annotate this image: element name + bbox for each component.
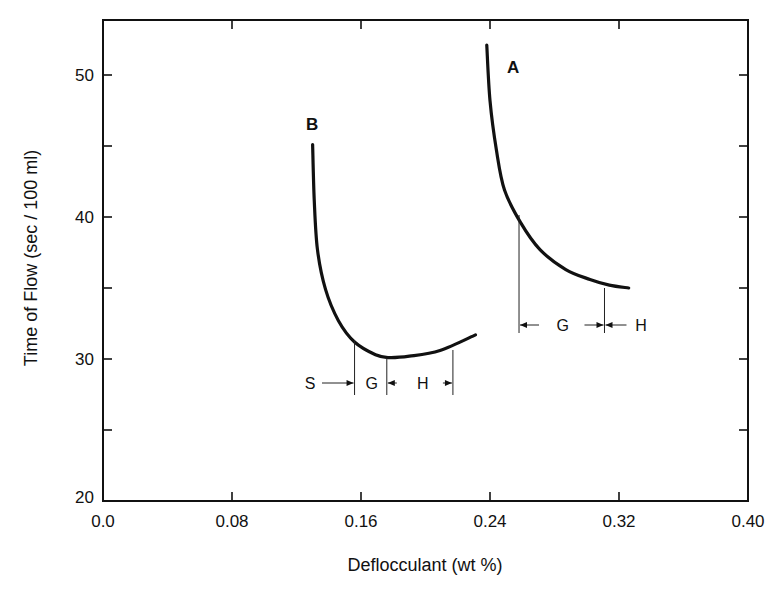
y-tick-label: 40 bbox=[75, 208, 94, 227]
y-tick-label: 20 bbox=[75, 488, 94, 507]
curve-a bbox=[487, 45, 629, 288]
x-tick-label: 0.16 bbox=[344, 512, 377, 531]
arrowhead bbox=[605, 322, 612, 328]
tick-labels: 0.00.080.160.240.320.4020304050 bbox=[75, 66, 764, 531]
x-tick-label: 0.32 bbox=[602, 512, 635, 531]
curve-b bbox=[313, 145, 476, 358]
arrowhead bbox=[388, 380, 395, 386]
x-tick-label: 0.40 bbox=[731, 512, 764, 531]
region-annotations: SGHGH bbox=[305, 215, 647, 395]
chart: 0.00.080.160.240.320.4020304050 Defloccu… bbox=[0, 0, 776, 589]
arrowhead bbox=[347, 380, 354, 386]
y-tick-label: 50 bbox=[75, 66, 94, 85]
region-label-h: H bbox=[635, 317, 647, 334]
region-label-s: S bbox=[305, 375, 316, 392]
x-tick-label: 0.24 bbox=[473, 512, 506, 531]
plot-frame bbox=[103, 20, 748, 501]
x-tick-label: 0.0 bbox=[91, 512, 115, 531]
y-tick-label: 30 bbox=[75, 350, 94, 369]
arrowhead bbox=[520, 322, 527, 328]
region-label-h: H bbox=[417, 375, 429, 392]
axis-ticks bbox=[103, 20, 748, 501]
x-tick-label: 0.08 bbox=[215, 512, 248, 531]
x-axis-title: Deflocculant (wt %) bbox=[347, 555, 502, 575]
y-axis-title: Time of Flow (sec / 100 ml) bbox=[21, 150, 41, 366]
curve-label-a: A bbox=[507, 58, 519, 77]
curves bbox=[313, 45, 629, 357]
arrowhead bbox=[445, 380, 452, 386]
region-label-g: G bbox=[365, 375, 377, 392]
arrowhead bbox=[596, 322, 603, 328]
region-label-g: G bbox=[557, 317, 569, 334]
curve-label-b: B bbox=[306, 115, 318, 134]
